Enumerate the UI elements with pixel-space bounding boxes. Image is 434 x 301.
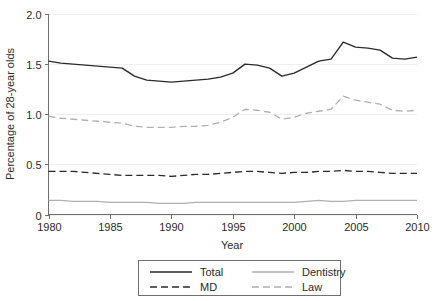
chart-canvas: 00.51.01.52.0 19801985199019952000200520… [0, 0, 434, 301]
series-line-md [49, 170, 418, 176]
series-line-total [49, 42, 418, 82]
y-tick-label: 1.5 [26, 59, 41, 71]
x-tick-label: 1990 [159, 221, 183, 233]
data-series-group [49, 42, 418, 203]
legend: TotalDentistryMDLaw [139, 261, 346, 296]
x-tick-label: 1980 [37, 221, 61, 233]
y-axis-title: Percentage of 28-year olds [4, 47, 16, 180]
legend-label-dentistry: Dentistry [302, 266, 346, 278]
x-tick-label: 2005 [344, 221, 368, 233]
series-line-dentistry [49, 200, 418, 203]
x-axis-ticks: 1980198519901995200020052010 [37, 215, 429, 233]
legend-label-total: Total [200, 266, 223, 278]
gridlines [49, 15, 418, 216]
x-tick-label: 2000 [282, 221, 306, 233]
y-axis-ticks: 00.51.01.52.0 [26, 9, 48, 222]
legend-label-law: Law [302, 281, 322, 293]
y-tick-label: 0.5 [26, 159, 41, 171]
y-tick-label: 2.0 [26, 9, 41, 21]
legend-label-md: MD [200, 281, 217, 293]
y-tick-label: 1.0 [26, 109, 41, 121]
x-tick-label: 2010 [405, 221, 429, 233]
x-tick-label: 1995 [221, 221, 245, 233]
series-line-law [49, 96, 418, 127]
x-axis-title: Year [221, 239, 244, 251]
x-tick-label: 1985 [98, 221, 122, 233]
line-chart: 00.51.01.52.0 19801985199019952000200520… [0, 0, 434, 301]
